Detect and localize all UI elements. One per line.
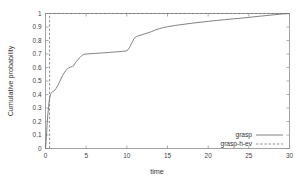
y-tick-label: 0.7 xyxy=(33,50,42,57)
y-tick-label: 0.9 xyxy=(33,23,42,30)
x-tick-label: 20 xyxy=(205,152,213,159)
y-tick-label: 0.4 xyxy=(33,91,42,98)
y-tick-label: 0.6 xyxy=(33,64,42,71)
axis-tick-labels: 05101520253000.10.20.30.40.50.60.70.80.9… xyxy=(33,10,294,159)
chart-container: 05101520253000.10.20.30.40.50.60.70.80.9… xyxy=(0,0,300,183)
legend-label-grasp-h-ev: grasp-h-ev xyxy=(220,140,252,148)
x-axis-title: time xyxy=(150,167,164,176)
x-tick-label: 5 xyxy=(84,152,88,159)
data-series xyxy=(46,14,290,149)
x-tick-label: 10 xyxy=(123,152,131,159)
cdf-line-chart: 05101520253000.10.20.30.40.50.60.70.80.9… xyxy=(0,0,300,183)
x-tick-label: 15 xyxy=(164,152,172,159)
plot-border xyxy=(46,14,290,149)
y-tick-label: 0.2 xyxy=(33,118,42,125)
chart-legend: graspgrasp-h-ev xyxy=(220,131,283,148)
y-tick-label: 0.3 xyxy=(33,104,42,111)
x-tick-label: 25 xyxy=(245,152,253,159)
legend-label-grasp: grasp xyxy=(236,131,253,139)
series-line-grasp-h-ev xyxy=(50,14,290,149)
x-tick-label: 30 xyxy=(286,152,294,159)
y-tick-label: 1 xyxy=(38,10,42,17)
x-tick-label: 0 xyxy=(44,152,48,159)
series-line-grasp xyxy=(46,14,290,149)
y-tick-label: 0.5 xyxy=(33,77,42,84)
y-tick-label: 0 xyxy=(38,145,42,152)
axis-ticks xyxy=(46,14,290,149)
plot-frame xyxy=(46,14,290,149)
y-tick-label: 0.1 xyxy=(33,131,42,138)
y-axis-title: Cumulative probability xyxy=(6,45,15,116)
y-tick-label: 0.8 xyxy=(33,37,42,44)
